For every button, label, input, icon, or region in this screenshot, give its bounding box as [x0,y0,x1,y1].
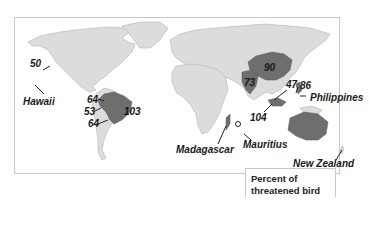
label-hawaii: Hawaii [23,97,55,107]
value-southeast-asia: 47 [286,80,297,90]
value-brazil: 103 [124,107,141,117]
north-america [28,27,135,92]
label-philippines: Philippines [310,93,363,103]
mauritius-marker [236,122,241,127]
legend-box: Percent of threatened bird species [245,168,336,197]
value-china: 90 [264,63,275,73]
label-madagascar: Madagascar [176,145,234,155]
africa [172,64,228,134]
value-india: 73 [244,78,255,88]
value-colombia: 53 [84,107,95,117]
australia-highlight [288,112,328,140]
value-peru: 64 [88,119,99,129]
value-indonesia: 104 [250,113,267,123]
label-mauritius: Mauritius [243,140,287,150]
legend-title: Percent of threatened bird species [251,173,320,197]
value-usa-west: 50 [30,59,41,69]
value-philippines: 86 [300,81,311,91]
madagascar-highlight [226,114,230,130]
value-central-america: 64 [87,95,98,105]
